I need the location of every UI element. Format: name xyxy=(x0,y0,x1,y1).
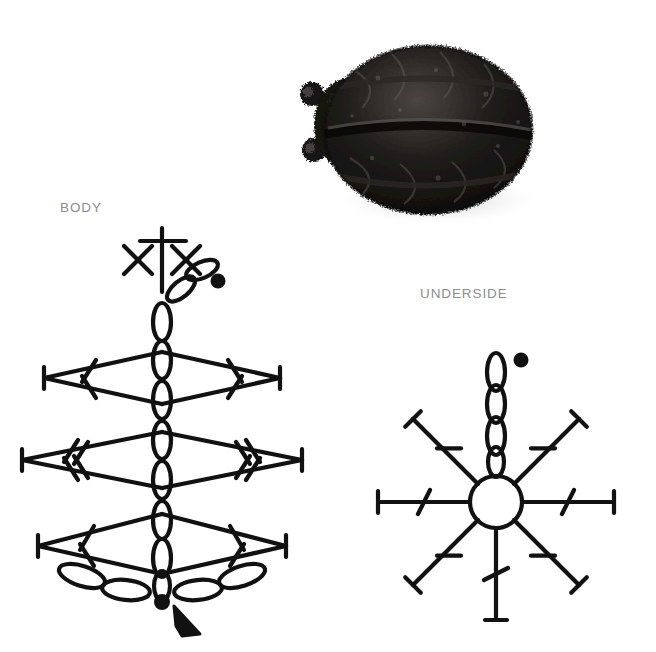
underside-start-dot xyxy=(514,353,529,368)
direction-arrowhead xyxy=(174,606,200,636)
crochet-charts xyxy=(0,0,656,652)
underside-spoke-south xyxy=(484,528,508,620)
underside-crochet-chart xyxy=(378,353,614,621)
underside-spoke-northwest xyxy=(405,411,478,484)
underside-spoke-east xyxy=(522,490,614,514)
body-chain-spine xyxy=(153,303,171,601)
underside-spoke-northeast xyxy=(514,411,587,484)
single-crochet-x-left xyxy=(124,246,152,274)
body-crochet-chart xyxy=(22,228,302,636)
underside-start-chains xyxy=(487,353,505,477)
underside-spoke-southwest xyxy=(405,520,478,593)
underside-spoke-southeast xyxy=(514,520,587,593)
top-start-dot xyxy=(211,274,226,289)
underside-spoke-west xyxy=(378,490,470,514)
body-start-dot xyxy=(154,594,170,610)
